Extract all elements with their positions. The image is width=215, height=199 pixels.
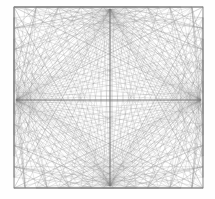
figure-root	[0, 0, 215, 199]
line-art-canvas	[0, 0, 215, 199]
